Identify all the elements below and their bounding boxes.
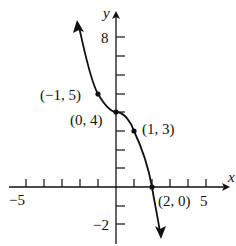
curve-arrow-bottom: [155, 226, 166, 239]
y-max-label: 8: [101, 30, 109, 46]
y-axis-label: y: [101, 5, 110, 21]
point-label-1-3: (1, 3): [142, 121, 175, 138]
x-max-label: 5: [200, 193, 208, 209]
point-2-0: [149, 184, 154, 189]
curve-arrow-top: [73, 20, 84, 33]
x-min-label: −5: [9, 192, 25, 208]
point-neg1-5: [95, 91, 100, 96]
point-label-2-0: (2, 0): [158, 193, 191, 210]
point-0-4: [113, 109, 118, 114]
x-axis-label: x: [227, 169, 235, 185]
point-1-3: [131, 128, 136, 133]
point-label-neg1-5: (−1, 5): [40, 87, 81, 104]
function-graph: y x −5 5 8 −2 (−1, 5) (0, 4) (1, 3) (2, …: [0, 0, 236, 246]
point-label-0-4: (0, 4): [70, 112, 103, 129]
y-ticks: [116, 37, 125, 224]
y-min-label: −2: [93, 217, 109, 233]
